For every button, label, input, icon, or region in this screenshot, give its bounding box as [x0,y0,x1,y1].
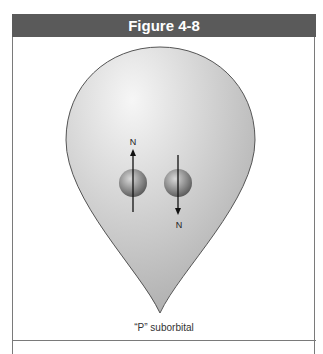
bottom-divider [12,340,316,341]
orbital-lobe [66,47,255,313]
north-label-left: N [130,137,137,147]
north-label-right: N [176,220,183,230]
figure-caption: “P” suborbital [12,322,316,333]
